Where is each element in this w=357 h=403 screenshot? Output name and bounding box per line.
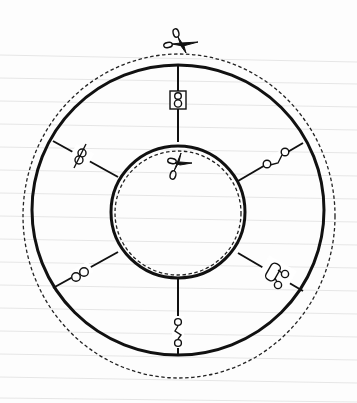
boxed-eight-icon [170, 91, 186, 109]
overlapping-circles-icon [68, 261, 93, 282]
inner-circle [111, 146, 245, 278]
crossed-circles-icon [70, 144, 94, 168]
scissors-icon [167, 153, 192, 180]
scissors-icon [163, 28, 198, 53]
zigzag-circles-icon [172, 316, 184, 348]
inner-cut-line [115, 151, 241, 275]
sewing-pattern-diagram [0, 0, 357, 403]
